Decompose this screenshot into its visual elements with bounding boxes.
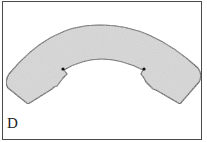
arch-shape — [6, 25, 201, 104]
figure-label: D — [7, 116, 18, 131]
right-notch-point — [142, 67, 145, 70]
arch-shape-figure — [0, 0, 207, 142]
left-notch-point — [61, 67, 64, 70]
